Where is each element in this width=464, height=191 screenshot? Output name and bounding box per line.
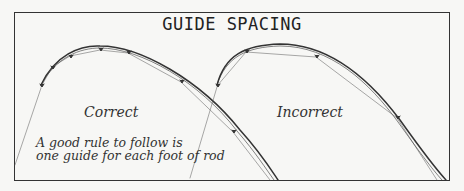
rule-line-2: one guide for each foot of rod: [36, 149, 225, 162]
rule-text: A good rule to follow is one guide for e…: [36, 136, 225, 162]
label-incorrect: Incorrect: [277, 104, 343, 120]
label-correct: Correct: [84, 104, 138, 120]
